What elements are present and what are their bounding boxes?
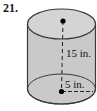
radius-label: 5 in. (65, 78, 85, 90)
cylinder-top-ellipse (28, 9, 96, 39)
top-center-dot (60, 18, 65, 23)
bottom-center-dot (59, 89, 64, 94)
cylinder-figure: 15 in. 5 in. (0, 0, 97, 111)
geometry-problem-figure: 21. 15 in. 5 in. (0, 0, 97, 111)
height-label: 15 in. (66, 47, 91, 59)
